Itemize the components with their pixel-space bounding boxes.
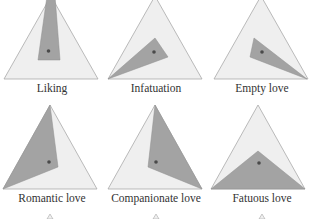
center-dot [47, 49, 51, 53]
triangle-tip-1 [47, 214, 53, 219]
panel-label: Companionate love [104, 192, 208, 204]
center-dot [152, 50, 156, 54]
love-triangle-companionate-love [100, 105, 210, 195]
panel-companionate-love: Companionate love [100, 105, 204, 210]
panel-infatuation: Infatuation [100, 0, 204, 105]
panel-label: Empty love [210, 82, 313, 94]
love-triangle-romantic-love [0, 105, 104, 195]
triangle-tip-2 [153, 214, 159, 219]
love-triangle-fatuous-love [204, 105, 313, 195]
panel-label: Liking [0, 82, 104, 94]
outer-triangle [214, 0, 308, 79]
love-triangle-liking [0, 0, 104, 90]
panel-label: Romantic love [0, 192, 104, 204]
panel-label: Infatuation [104, 82, 208, 94]
center-dot [260, 50, 264, 54]
panel-romantic-love: Romantic love [0, 105, 104, 210]
panel-liking: Liking [0, 0, 104, 105]
center-dot [47, 160, 51, 164]
love-triangle-infatuation [100, 0, 210, 90]
panel-fatuous-love: Fatuous love [204, 105, 308, 210]
triangle-tip-3 [259, 214, 265, 219]
panel-empty-love: Empty love [204, 0, 308, 105]
love-triangle-empty-love [204, 0, 313, 90]
next-row-triangle-tips [0, 213, 313, 219]
center-dot [154, 160, 158, 164]
center-dot [257, 161, 261, 165]
panel-label: Fatuous love [210, 192, 313, 204]
